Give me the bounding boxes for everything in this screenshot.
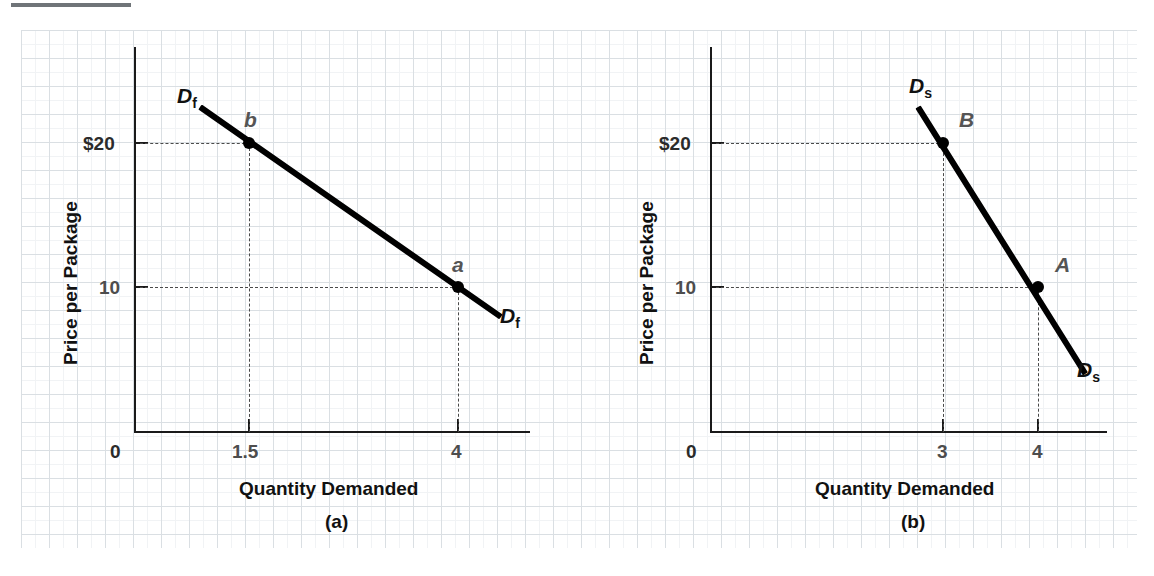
panel-a-ytick-label-20: $20 [83, 133, 115, 155]
panel-a-point-a-dot [452, 281, 464, 293]
panel-b-ytick-label-20: $20 [659, 133, 691, 155]
panel-a-guide-v-4 [458, 287, 459, 432]
panel-b-curve-label-lower-main: D [1077, 358, 1092, 381]
panel-b-point-A-dot [1032, 281, 1044, 293]
panel-b-curve-label-upper: Ds [909, 74, 932, 101]
panel-b-guide-v-4 [1038, 287, 1039, 432]
panel-b-xtick-label-2: 4 [1032, 441, 1043, 463]
panel-b-point-B-dot [937, 137, 949, 149]
panel-a-origin-label: 0 [110, 441, 121, 463]
panel-a-point-b-label: b [244, 108, 257, 132]
panel-b-point-A-label: A [1055, 253, 1070, 277]
panel-a-curve-label-upper: Df [177, 84, 197, 111]
panel-b-guide-h-10 [716, 287, 1038, 288]
panel-b-y-axis [710, 47, 712, 433]
panel-b-y-axis-title: Price per Package [636, 201, 658, 365]
panel-b-caption: (b) [901, 511, 925, 533]
panel-a-curve-label-upper-sub: f [192, 95, 197, 111]
panel-a-x-axis [134, 431, 530, 433]
panel-b-curve-label-upper-sub: s [924, 85, 932, 101]
panel-b-point-B-label: B [959, 108, 974, 132]
panel-a-curve-label-lower-sub: f [515, 315, 520, 331]
panel-b-origin-label: 0 [686, 441, 697, 463]
panel-b-guide-h-20 [716, 143, 944, 144]
panel-a-point-a-label: a [452, 253, 464, 277]
panel-a-ytick-label-10: 10 [99, 277, 120, 299]
panel-b-x-axis [710, 431, 1107, 433]
panel-b-ytick-label-10: 10 [675, 277, 696, 299]
panel-b: B A Ds Ds $20 10 0 3 4 Quantity Demanded… [577, 0, 1154, 576]
panel-a-point-b-dot [243, 137, 255, 149]
panel-a-curve-label-lower: Df [500, 304, 520, 331]
panel-a-curve-label-lower-main: D [500, 304, 515, 327]
panel-a-caption: (a) [325, 511, 348, 533]
panel-b-curve-label-upper-main: D [909, 74, 924, 97]
panel-a-y-axis [134, 47, 136, 433]
panel-a-guide-h-20 [140, 143, 250, 144]
figure-canvas: b a Df Df $20 10 0 1.5 4 Quantity Demand… [0, 0, 1154, 576]
panel-a-xtick-label-1: 1.5 [232, 441, 258, 463]
panel-a-guide-h-10 [140, 287, 458, 288]
panel-b-curve-label-lower: Ds [1077, 358, 1100, 385]
panel-b-xtick-label-1: 3 [937, 441, 948, 463]
panel-b-x-axis-title: Quantity Demanded [815, 478, 994, 500]
panel-a-curve-label-upper-main: D [177, 84, 192, 107]
panel-a: b a Df Df $20 10 0 1.5 4 Quantity Demand… [0, 0, 577, 576]
panel-a-y-axis-title: Price per Package [60, 201, 82, 365]
panel-a-xtick-label-2: 4 [451, 441, 462, 463]
panel-a-x-axis-title: Quantity Demanded [239, 478, 418, 500]
panel-b-curve-label-lower-sub: s [1092, 369, 1100, 385]
